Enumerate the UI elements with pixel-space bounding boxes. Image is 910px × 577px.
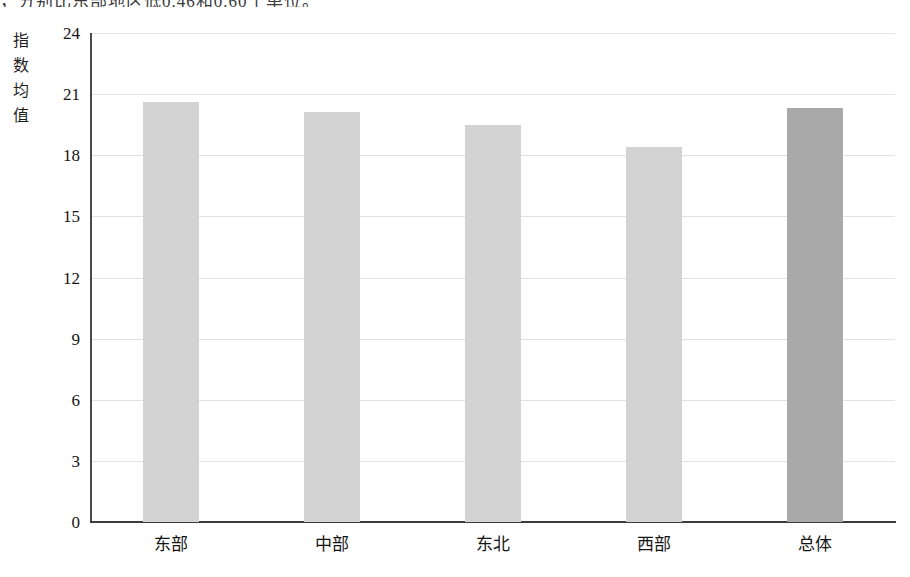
- y-tick-label-12: 12: [63, 269, 80, 286]
- y-axis-title: 指 数 均 值: [8, 28, 34, 128]
- y-axis-title-char-3: 均: [8, 78, 34, 103]
- y-tick-label-3: 3: [72, 452, 81, 469]
- x-label-东北: 东北: [476, 533, 510, 557]
- bar-slot: [413, 33, 574, 522]
- bar-东部[interactable]: [143, 102, 199, 522]
- bar-中部[interactable]: [304, 112, 360, 522]
- x-label-东部: 东部: [154, 533, 188, 557]
- bar-总体[interactable]: [787, 108, 843, 522]
- bar-西部[interactable]: [626, 147, 682, 522]
- y-tick-label-21: 21: [63, 86, 80, 103]
- bar-slot: [573, 33, 734, 522]
- y-axis-tick-labels: 03691215182124: [38, 0, 84, 577]
- y-tick-label-9: 9: [72, 330, 81, 347]
- bar-slot: [91, 33, 252, 522]
- y-axis-title-char-2: 数: [8, 53, 34, 78]
- x-axis-category-labels: 东部中部东北西部总体: [91, 533, 895, 563]
- bar-东北[interactable]: [465, 125, 521, 522]
- bar-slot: [252, 33, 413, 522]
- y-tick-label-15: 15: [63, 208, 80, 225]
- y-axis-title-char-1: 指: [8, 28, 34, 53]
- x-label-总体: 总体: [798, 533, 832, 557]
- bar-slot: [734, 33, 895, 522]
- y-tick-label-6: 6: [72, 391, 81, 408]
- y-tick-label-24: 24: [63, 25, 80, 42]
- bar-chart-figure: 指 数 均 值 03691215182124 东部中部东北西部总体: [0, 0, 910, 577]
- y-axis-title-char-4: 值: [8, 103, 34, 128]
- y-tick-label-18: 18: [63, 147, 80, 164]
- x-label-中部: 中部: [315, 533, 349, 557]
- y-tick-label-0: 0: [72, 514, 81, 531]
- bar-series: [91, 33, 895, 522]
- x-label-西部: 西部: [637, 533, 671, 557]
